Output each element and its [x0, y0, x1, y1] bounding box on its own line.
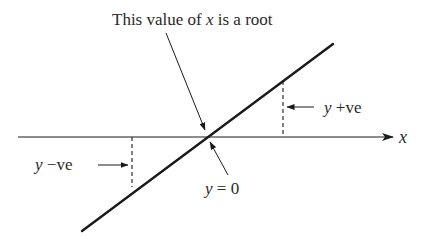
x-axis-label: x	[398, 127, 407, 147]
root-title-suffix: is a root	[214, 10, 273, 29]
root-title: This value of x is a root	[112, 10, 273, 29]
root-pointer-arrow	[166, 33, 205, 130]
root-diagram: x This value of x is a root y +ve y −ve …	[0, 0, 433, 248]
y-positive-label: y +ve	[322, 98, 361, 117]
y-zero-arrow	[210, 142, 228, 175]
root-title-prefix: This value of	[112, 10, 206, 29]
y-negative-label: y −ve	[33, 155, 72, 174]
y-zero-label: y = 0	[203, 179, 239, 198]
